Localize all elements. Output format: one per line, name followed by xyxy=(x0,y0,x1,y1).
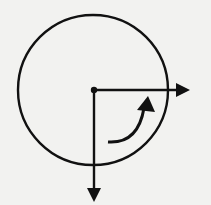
rotation-diagram xyxy=(0,0,211,205)
horizontal-arrow xyxy=(94,83,190,97)
diagram-canvas xyxy=(0,0,211,205)
vertical-arrow xyxy=(87,90,101,202)
rotation-arrow-icon xyxy=(108,96,155,142)
